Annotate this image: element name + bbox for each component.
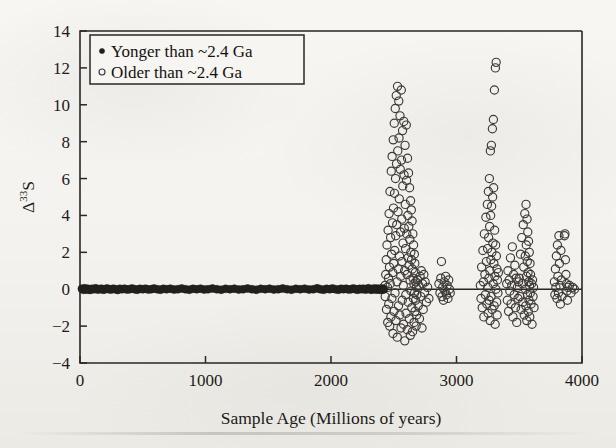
data-point-open bbox=[511, 261, 519, 269]
data-point-open bbox=[561, 256, 569, 264]
data-point-open bbox=[506, 254, 514, 262]
y-tick-label: 4 bbox=[62, 206, 71, 225]
y-axis-title: Δ33S bbox=[17, 181, 38, 213]
data-point-open bbox=[482, 213, 490, 221]
data-point-open bbox=[526, 259, 534, 267]
y-tick-label: 6 bbox=[62, 170, 71, 189]
data-point-open bbox=[523, 291, 531, 299]
y-tick-label: 12 bbox=[53, 59, 70, 78]
data-point-open bbox=[390, 119, 398, 127]
y-axis-title-superscript: 33 bbox=[17, 190, 29, 202]
x-tick-label: 1000 bbox=[189, 371, 223, 390]
y-axis: 14121086420−2−4 bbox=[52, 22, 87, 373]
data-point-open bbox=[489, 193, 497, 201]
legend-label-yonger: Yonger than ~2.4 Ga bbox=[111, 42, 253, 61]
data-point-open bbox=[382, 305, 390, 313]
data-point-open bbox=[488, 125, 496, 133]
data-series-yonger bbox=[78, 284, 388, 294]
legend-label-older: Older than ~2.4 Ga bbox=[111, 63, 242, 82]
data-point-open bbox=[487, 211, 495, 219]
data-point-open bbox=[487, 141, 495, 149]
chart-svg: 14121086420−2−4 01000200030004000 Δ33S S… bbox=[0, 0, 616, 448]
x-tick-label: 4000 bbox=[565, 371, 599, 390]
data-point-open bbox=[490, 86, 498, 94]
data-point-open bbox=[437, 257, 445, 265]
data-point-open bbox=[398, 215, 406, 223]
y-axis-title-element: S bbox=[18, 181, 38, 191]
data-point-open bbox=[493, 311, 501, 319]
y-tick-label: 8 bbox=[62, 133, 71, 152]
data-point-open bbox=[394, 147, 402, 155]
data-point-open bbox=[562, 270, 570, 278]
x-axis: 01000200030004000 bbox=[76, 356, 599, 390]
data-point-open bbox=[387, 233, 395, 241]
legend-marker-filled-circle bbox=[99, 48, 104, 53]
data-point-open bbox=[489, 239, 497, 247]
data-point-open bbox=[389, 136, 397, 144]
data-point-open bbox=[385, 210, 393, 218]
scatter-figure: 14121086420−2−4 01000200030004000 Δ33S S… bbox=[0, 0, 616, 448]
data-point-open bbox=[492, 58, 500, 66]
data-series-older bbox=[381, 58, 579, 345]
y-tick-label: 0 bbox=[62, 280, 71, 299]
x-tick-label: 3000 bbox=[440, 371, 474, 390]
data-point-open bbox=[524, 228, 532, 236]
data-point-open bbox=[387, 167, 395, 175]
y-tick-label: 14 bbox=[53, 22, 71, 41]
data-point-open bbox=[516, 250, 524, 258]
data-point-open bbox=[521, 210, 529, 218]
y-tick-label: −4 bbox=[52, 354, 71, 373]
data-point-open bbox=[486, 147, 494, 155]
y-axis-title-delta: Δ bbox=[18, 202, 38, 213]
data-point-open bbox=[492, 241, 500, 249]
x-tick-label: 2000 bbox=[314, 371, 348, 390]
y-tick-label: 10 bbox=[53, 96, 70, 115]
data-point-filled bbox=[380, 285, 388, 293]
data-point-open bbox=[391, 174, 399, 182]
data-point-open bbox=[555, 259, 563, 267]
y-tick-label: −2 bbox=[52, 317, 70, 336]
data-point-open bbox=[399, 281, 407, 289]
data-point-open bbox=[508, 243, 516, 251]
x-axis-title: Sample Age (Millions of years) bbox=[221, 408, 442, 428]
legend[interactable]: Yonger than ~2.4 Ga Older than ~2.4 Ga bbox=[90, 35, 304, 84]
data-point-open bbox=[485, 174, 493, 182]
data-point-open bbox=[489, 115, 497, 123]
y-tick-label: 2 bbox=[62, 243, 71, 262]
data-point-open bbox=[479, 246, 487, 254]
x-tick-label: 0 bbox=[76, 371, 85, 390]
data-point-open bbox=[522, 200, 530, 208]
data-point-open bbox=[401, 141, 409, 149]
